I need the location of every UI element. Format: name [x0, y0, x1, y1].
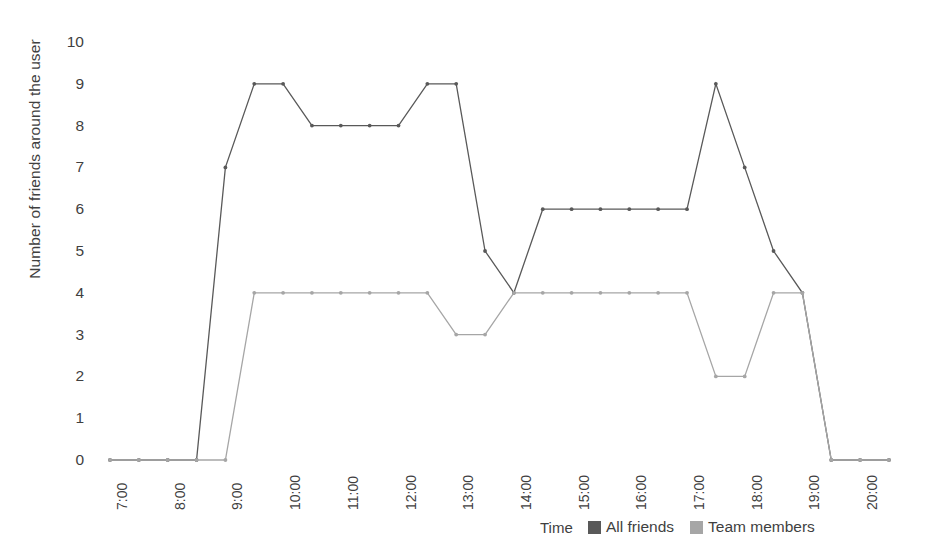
- data-point-marker: [801, 291, 805, 295]
- series-all-friends: [108, 82, 891, 462]
- data-point-marker: [368, 291, 372, 295]
- x-axis-tick-label: 14:00: [519, 475, 533, 510]
- data-point-marker: [743, 375, 747, 379]
- x-axis-tick-label: 17:00: [692, 475, 706, 510]
- data-point-marker: [281, 82, 285, 86]
- series-line: [110, 84, 889, 460]
- data-point-marker: [685, 207, 689, 211]
- legend-swatch-icon: [588, 521, 601, 534]
- data-point-marker: [829, 458, 833, 462]
- legend-item[interactable]: All friends: [588, 518, 674, 536]
- legend-label: Team members: [708, 518, 815, 536]
- data-point-marker: [570, 207, 574, 211]
- data-point-marker: [454, 333, 458, 337]
- data-point-marker: [887, 458, 891, 462]
- data-point-marker: [339, 124, 343, 128]
- data-point-marker: [541, 291, 545, 295]
- data-point-marker: [627, 207, 631, 211]
- x-axis-tick-label: 12:00: [404, 475, 418, 510]
- x-axis-tick-label: 19:00: [807, 475, 821, 510]
- data-point-marker: [339, 291, 343, 295]
- data-point-marker: [685, 291, 689, 295]
- data-point-marker: [570, 291, 574, 295]
- x-axis-tick-label: 16:00: [634, 475, 648, 510]
- data-point-marker: [772, 249, 776, 253]
- x-axis-tick-label: 8:00: [173, 483, 187, 510]
- series-line: [110, 293, 889, 460]
- x-axis-tick-label: 7:00: [115, 483, 129, 510]
- data-point-marker: [166, 458, 170, 462]
- x-axis-tick-label: 10:00: [288, 475, 302, 510]
- data-point-marker: [224, 166, 228, 170]
- plot-area: [0, 0, 952, 551]
- data-point-marker: [310, 291, 314, 295]
- data-point-marker: [224, 458, 228, 462]
- series-team-members: [108, 291, 891, 462]
- data-point-marker: [627, 291, 631, 295]
- data-point-marker: [281, 291, 285, 295]
- data-point-marker: [483, 249, 487, 253]
- data-point-marker: [541, 207, 545, 211]
- data-point-marker: [397, 124, 401, 128]
- data-point-marker: [108, 458, 112, 462]
- x-axis-tick-label: 18:00: [750, 475, 764, 510]
- data-point-marker: [772, 291, 776, 295]
- data-point-marker: [858, 458, 862, 462]
- legend-item[interactable]: Team members: [690, 518, 815, 536]
- data-point-marker: [599, 291, 603, 295]
- data-point-marker: [368, 124, 372, 128]
- data-point-marker: [656, 207, 660, 211]
- x-axis-tick-label: 11:00: [346, 476, 360, 510]
- data-point-marker: [599, 207, 603, 211]
- data-point-marker: [137, 458, 141, 462]
- x-axis-title: Time: [540, 519, 573, 536]
- chart-container: Number of friends around the user 109876…: [0, 0, 952, 551]
- x-axis-tick-label: 9:00: [230, 483, 244, 510]
- data-point-marker: [252, 291, 256, 295]
- data-point-marker: [252, 82, 256, 86]
- data-point-marker: [483, 333, 487, 337]
- x-axis-tick-label: 15:00: [577, 475, 591, 510]
- data-point-marker: [195, 458, 199, 462]
- chart-legend: All friendsTeam members: [588, 518, 815, 536]
- data-point-marker: [454, 82, 458, 86]
- data-point-marker: [656, 291, 660, 295]
- data-point-marker: [714, 82, 718, 86]
- data-point-marker: [310, 124, 314, 128]
- data-point-marker: [425, 82, 429, 86]
- data-point-marker: [743, 166, 747, 170]
- legend-swatch-icon: [690, 521, 703, 534]
- legend-label: All friends: [606, 518, 674, 536]
- data-point-marker: [397, 291, 401, 295]
- x-axis-tick-label: 13:00: [461, 475, 475, 510]
- data-point-marker: [425, 291, 429, 295]
- data-point-marker: [714, 375, 718, 379]
- data-point-marker: [512, 291, 516, 295]
- x-axis-tick-label: 20:00: [865, 475, 879, 510]
